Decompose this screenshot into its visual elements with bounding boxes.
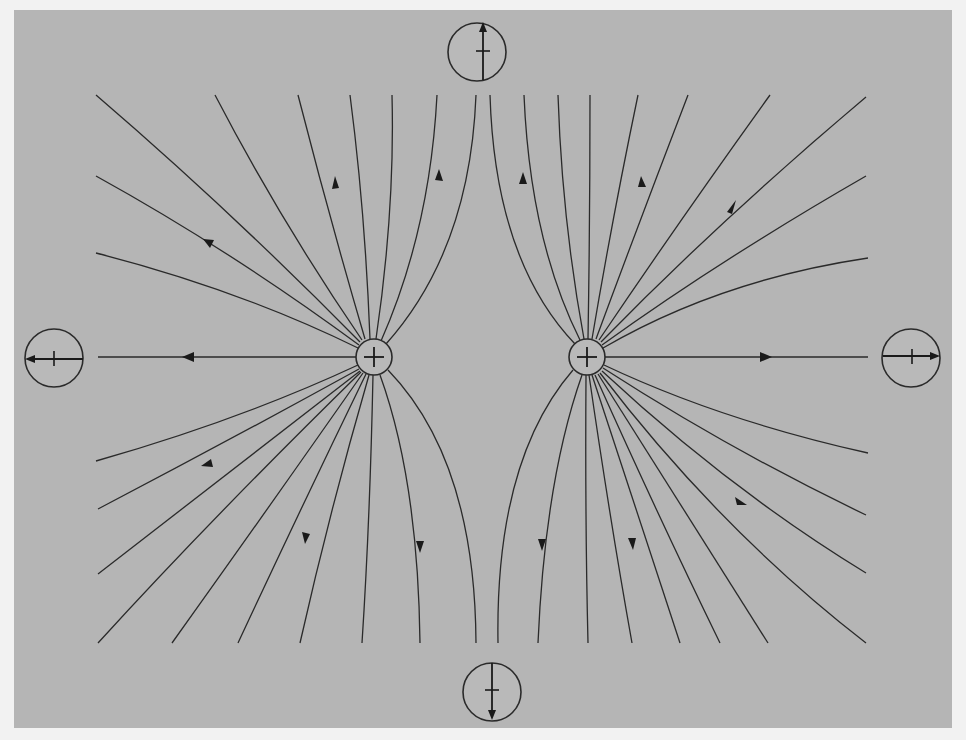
arrow-icon xyxy=(519,172,527,184)
field-line xyxy=(172,373,363,643)
field-line-diagram xyxy=(0,0,966,740)
field-line xyxy=(592,95,638,339)
field-line xyxy=(215,95,362,340)
arrow-icon xyxy=(735,497,747,505)
field-line xyxy=(538,375,582,643)
field-line xyxy=(598,374,768,643)
field-line xyxy=(524,95,580,340)
right-charge-field-lines xyxy=(490,95,868,643)
left-charge xyxy=(356,339,392,375)
field-line xyxy=(596,95,688,339)
field-line xyxy=(558,95,584,339)
field-line xyxy=(588,95,590,339)
field-line xyxy=(380,375,420,643)
field-line xyxy=(362,375,373,643)
compass-icon xyxy=(448,23,506,81)
field-line xyxy=(592,375,680,643)
compass-left xyxy=(25,329,83,387)
arrow-icon xyxy=(201,459,213,467)
arrow-icon xyxy=(203,239,214,248)
arrow-icon xyxy=(332,176,339,189)
arrow-icon xyxy=(182,352,194,362)
field-line xyxy=(602,371,866,573)
field-line xyxy=(600,373,866,643)
compass-right xyxy=(882,329,940,387)
field-line xyxy=(388,370,476,643)
field-line xyxy=(599,95,770,340)
field-line xyxy=(586,375,588,643)
field-line xyxy=(96,95,360,342)
compass-top xyxy=(448,22,506,81)
field-line xyxy=(595,375,720,643)
field-line xyxy=(98,372,361,643)
field-line xyxy=(603,368,866,515)
arrow-icon xyxy=(638,176,646,187)
field-line xyxy=(238,374,366,643)
field-line xyxy=(602,176,866,345)
field-line xyxy=(350,95,370,339)
arrow-icon xyxy=(435,169,443,181)
field-line xyxy=(490,95,575,344)
field-line xyxy=(603,258,868,348)
field-line xyxy=(376,95,392,339)
field-line xyxy=(498,370,573,643)
left-charge-field-lines xyxy=(96,95,476,643)
arrow-icon xyxy=(416,541,424,553)
field-line xyxy=(98,369,359,509)
field-line xyxy=(300,375,369,643)
field-line xyxy=(96,176,359,345)
right-charge xyxy=(569,339,605,375)
arrow-icon xyxy=(302,532,310,544)
field-line xyxy=(98,371,360,574)
field-line xyxy=(386,95,476,344)
field-line xyxy=(589,375,632,643)
arrow-icon xyxy=(628,538,636,550)
compass-bottom xyxy=(463,663,521,721)
arrow-icon xyxy=(760,352,772,362)
